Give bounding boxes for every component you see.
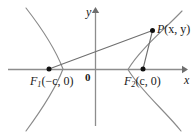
segment-f1-p: [49, 31, 153, 70]
y-axis-label: y: [86, 6, 91, 18]
focus-f2-dot: [141, 67, 146, 72]
focus-f1-label-coords: (−c, 0): [41, 74, 73, 88]
figure-canvas: [0, 0, 196, 139]
focus-f2-label-coords: (c, 0): [135, 74, 160, 88]
focus-f1-label: F1(−c, 0): [30, 75, 74, 89]
segment-f2-p: [143, 31, 153, 70]
focus-f1-dot: [47, 67, 52, 72]
hyperbola-figure: P(x, y) F1(−c, 0) F2(c, 0) 0 x y: [0, 0, 196, 139]
point-p-label-coords: (x, y): [164, 22, 190, 36]
focal-radii-group: [49, 31, 153, 70]
point-p-label: P(x, y): [157, 23, 190, 35]
x-axis-label: x: [184, 74, 189, 86]
origin-label: 0: [85, 72, 91, 83]
y-axis-arrowhead: [92, 7, 99, 13]
focus-f2-label: F2(c, 0): [124, 75, 161, 89]
point-p-dot: [150, 28, 155, 33]
